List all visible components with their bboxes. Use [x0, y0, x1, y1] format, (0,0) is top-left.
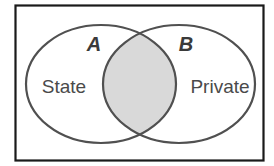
venn-diagram: A B State Private — [0, 0, 274, 166]
set-b-letter: B — [179, 33, 193, 55]
set-a-label: State — [42, 76, 86, 97]
set-b-label: Private — [190, 76, 249, 97]
set-a-letter: A — [86, 33, 101, 55]
